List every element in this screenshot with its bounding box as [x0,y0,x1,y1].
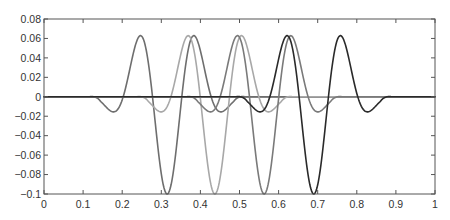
x-tick-label: 0.7 [310,198,325,210]
y-tick-label: −0.02 [14,110,41,122]
x-axis-ticks: 00.10.20.30.40.50.60.70.80.91 [41,19,438,210]
y-tick-label: 0.04 [21,52,42,64]
y-tick-label: −0.1 [20,188,41,200]
x-tick-label: 0.3 [154,198,169,210]
y-axis-ticks: 0.080.060.040.020−0.02−0.04−0.06−0.08−0.… [14,13,435,200]
x-tick-label: 0 [41,198,47,210]
y-tick-label: 0.02 [21,71,42,83]
x-tick-label: 0.2 [115,198,130,210]
series-wavelet-3 [44,36,435,194]
series-layer [44,36,435,194]
x-tick-label: 0.8 [349,198,364,210]
x-tick-label: 0.9 [389,198,404,210]
series-wavelet-2 [44,36,435,194]
x-tick-label: 0.4 [193,198,208,210]
y-tick-label: −0.04 [14,129,41,141]
x-tick-label: 0.1 [76,198,91,210]
y-tick-label: 0.06 [21,32,42,44]
x-tick-label: 0.6 [271,198,286,210]
y-tick-label: 0.08 [21,13,42,25]
series-wavelet-1 [44,36,435,194]
x-tick-label: 1 [432,198,438,210]
y-tick-label: −0.06 [14,149,41,161]
series-wavelet-4 [44,36,435,194]
wavelet-line-chart: 00.10.20.30.40.50.60.70.80.91 0.080.060.… [0,0,450,220]
y-tick-label: 0 [35,91,41,103]
y-tick-label: −0.08 [14,168,41,180]
x-tick-label: 0.5 [232,198,247,210]
